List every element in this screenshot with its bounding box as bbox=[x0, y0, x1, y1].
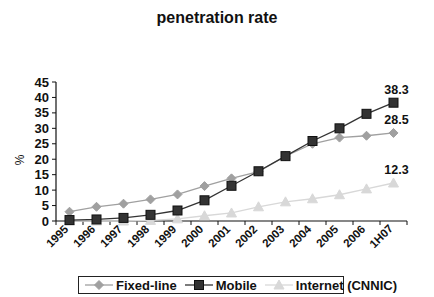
axes: 0510152025303540451995199619971998199920… bbox=[35, 75, 407, 251]
end-value-label: 12.3 bbox=[384, 163, 408, 177]
line-chart: 0510152025303540451995199619971998199920… bbox=[0, 0, 434, 297]
y-tick-label: 25 bbox=[35, 136, 49, 151]
series-internet-cnnic: 12.3 bbox=[65, 163, 409, 225]
x-tick-label: 2002 bbox=[233, 223, 260, 250]
legend-label: Internet (CNNIC) bbox=[296, 278, 397, 293]
x-tick-label: 2003 bbox=[260, 223, 287, 250]
y-tick-label: 40 bbox=[35, 90, 49, 105]
legend: Fixed-lineMobileInternet (CNNIC) bbox=[78, 276, 344, 294]
legend-label: Fixed-line bbox=[116, 278, 177, 293]
end-value-label: 38.3 bbox=[384, 83, 408, 97]
diamond-marker-icon bbox=[85, 279, 113, 291]
legend-item: Fixed-line bbox=[85, 278, 177, 293]
y-tick-label: 35 bbox=[35, 105, 49, 120]
legend-item: Mobile bbox=[185, 278, 257, 293]
x-tick-label: 2001 bbox=[206, 222, 233, 249]
x-tick-label: 2004 bbox=[287, 222, 314, 249]
square-marker-icon bbox=[185, 279, 213, 291]
y-tick-label: 10 bbox=[35, 183, 49, 198]
y-tick-label: 30 bbox=[35, 121, 49, 136]
end-value-label: 28.5 bbox=[384, 113, 408, 127]
series-fixed-line: 28.5 bbox=[65, 113, 409, 216]
x-tick-label: 1996 bbox=[71, 223, 98, 250]
x-tick-label: 2000 bbox=[179, 223, 206, 250]
series-layer: 12.328.538.3 bbox=[65, 83, 409, 225]
y-tick-label: 0 bbox=[42, 214, 49, 229]
series-mobile: 38.3 bbox=[65, 83, 409, 225]
y-axis-label: % bbox=[13, 154, 27, 165]
y-tick-label: 15 bbox=[35, 167, 49, 182]
x-tick-label: 1998 bbox=[125, 222, 152, 249]
y-tick-label: 20 bbox=[35, 152, 49, 167]
x-tick-label: 1997 bbox=[98, 223, 125, 250]
y-tick-label: 45 bbox=[35, 75, 49, 90]
x-tick-label: 1999 bbox=[152, 223, 179, 250]
y-tick-label: 5 bbox=[42, 198, 49, 213]
legend-item: Internet (CNNIC) bbox=[265, 278, 397, 293]
triangle-marker-icon bbox=[265, 279, 293, 291]
x-tick-label: 1H07 bbox=[367, 222, 395, 250]
x-tick-label: 2006 bbox=[341, 223, 368, 250]
x-tick-label: 2005 bbox=[314, 222, 341, 249]
legend-label: Mobile bbox=[216, 278, 257, 293]
